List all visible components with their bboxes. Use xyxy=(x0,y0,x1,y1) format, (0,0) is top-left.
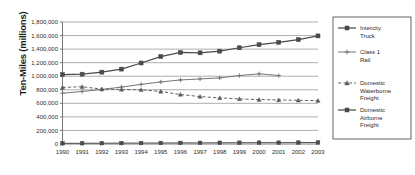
x-tick-label: 2003 xyxy=(311,149,325,155)
series-2 xyxy=(60,72,281,96)
data-point-marker xyxy=(237,73,241,77)
legend-label: Intercity xyxy=(360,25,381,31)
data-point-marker xyxy=(345,108,349,112)
x-tick-label: 2002 xyxy=(292,149,306,155)
data-point-marker xyxy=(120,141,124,145)
y-tick-label: 200,000 xyxy=(36,128,58,134)
data-point-marker xyxy=(159,80,163,84)
data-point-marker xyxy=(237,46,241,50)
y-tick-label: 800,000 xyxy=(36,87,58,93)
data-point-marker xyxy=(198,77,202,81)
x-tick-label: 1991 xyxy=(75,149,89,155)
legend-label: Freight xyxy=(360,95,379,101)
x-tick-label: 1999 xyxy=(233,149,247,155)
data-point-marker xyxy=(218,141,222,145)
x-tick-label: 1997 xyxy=(193,149,207,155)
y-tick-label: 0 xyxy=(55,141,59,147)
data-point-marker xyxy=(277,141,281,145)
legend-label: Truck xyxy=(360,33,376,39)
x-tick-label: 1995 xyxy=(154,149,168,155)
y-tick-label: 600,000 xyxy=(36,100,58,106)
y-tick-label: 400,000 xyxy=(36,114,58,120)
data-point-marker xyxy=(218,49,222,53)
data-point-marker xyxy=(238,141,242,145)
x-tick-label: 1993 xyxy=(115,149,129,155)
data-point-marker xyxy=(100,70,104,74)
legend-label: Waterborne xyxy=(360,88,392,94)
chart-container: Ten-Miles (millions) 0200,000400,000600,… xyxy=(0,0,415,175)
data-point-marker xyxy=(198,141,202,145)
legend-label: Rail xyxy=(360,57,370,63)
legend-label: Class 1 xyxy=(360,49,381,55)
data-point-marker xyxy=(316,141,320,145)
chart-legend: IntercityTruckClass 1RailDomesticWaterbo… xyxy=(333,17,411,139)
data-point-marker xyxy=(198,51,202,55)
data-point-marker xyxy=(100,141,104,145)
series-3 xyxy=(60,85,320,103)
x-tick-label: 2000 xyxy=(252,149,266,155)
data-point-marker xyxy=(159,55,163,59)
x-tick-label: 1998 xyxy=(213,149,227,155)
data-point-marker xyxy=(139,61,143,65)
series-4 xyxy=(61,141,320,145)
data-point-marker xyxy=(345,26,349,30)
y-tick-label: 1,200,000 xyxy=(31,60,58,66)
legend-label: Domestic xyxy=(360,80,385,86)
data-point-marker xyxy=(119,67,123,71)
data-point-marker xyxy=(179,141,183,145)
data-point-marker xyxy=(61,73,65,77)
legend-label: Freight xyxy=(360,122,379,128)
data-point-marker xyxy=(297,141,301,145)
data-point-marker xyxy=(257,43,261,47)
y-axis-tick-labels: 0200,000400,000600,000800,0001,000,0001,… xyxy=(31,19,58,147)
x-axis-tick-labels: 1990199119921993199419951996199719981999… xyxy=(56,149,326,155)
data-point-marker xyxy=(178,78,182,82)
x-tick-label: 1992 xyxy=(95,149,109,155)
data-point-marker xyxy=(80,141,84,145)
data-point-marker xyxy=(60,91,64,95)
x-tick-label: 1996 xyxy=(174,149,188,155)
data-point-marker xyxy=(178,51,182,55)
y-tick-label: 1,000,000 xyxy=(31,73,58,79)
data-point-marker xyxy=(277,40,281,44)
line-chart-plot: 0200,000400,000600,000800,0001,000,0001,… xyxy=(0,0,415,175)
data-point-marker xyxy=(80,72,84,76)
x-tick-label: 1990 xyxy=(56,149,70,155)
data-point-marker xyxy=(257,141,261,145)
data-point-marker xyxy=(159,141,163,145)
series-1 xyxy=(61,34,321,77)
series-line xyxy=(63,74,279,93)
data-point-marker xyxy=(257,72,261,76)
data-point-marker xyxy=(61,142,65,146)
x-tick-label: 2001 xyxy=(272,149,286,155)
y-tick-label: 1,600,000 xyxy=(31,33,58,39)
y-tick-label: 1,800,000 xyxy=(31,19,58,25)
data-point-marker xyxy=(296,38,300,42)
data-point-marker xyxy=(276,73,280,77)
data-point-marker xyxy=(139,141,143,145)
x-tick-label: 1994 xyxy=(134,149,148,155)
legend-label: Domestic xyxy=(360,107,385,113)
data-point-marker xyxy=(139,82,143,86)
legend-label: Airborne xyxy=(360,115,383,121)
y-tick-label: 1,400,000 xyxy=(31,46,58,52)
data-point-marker xyxy=(316,34,320,38)
